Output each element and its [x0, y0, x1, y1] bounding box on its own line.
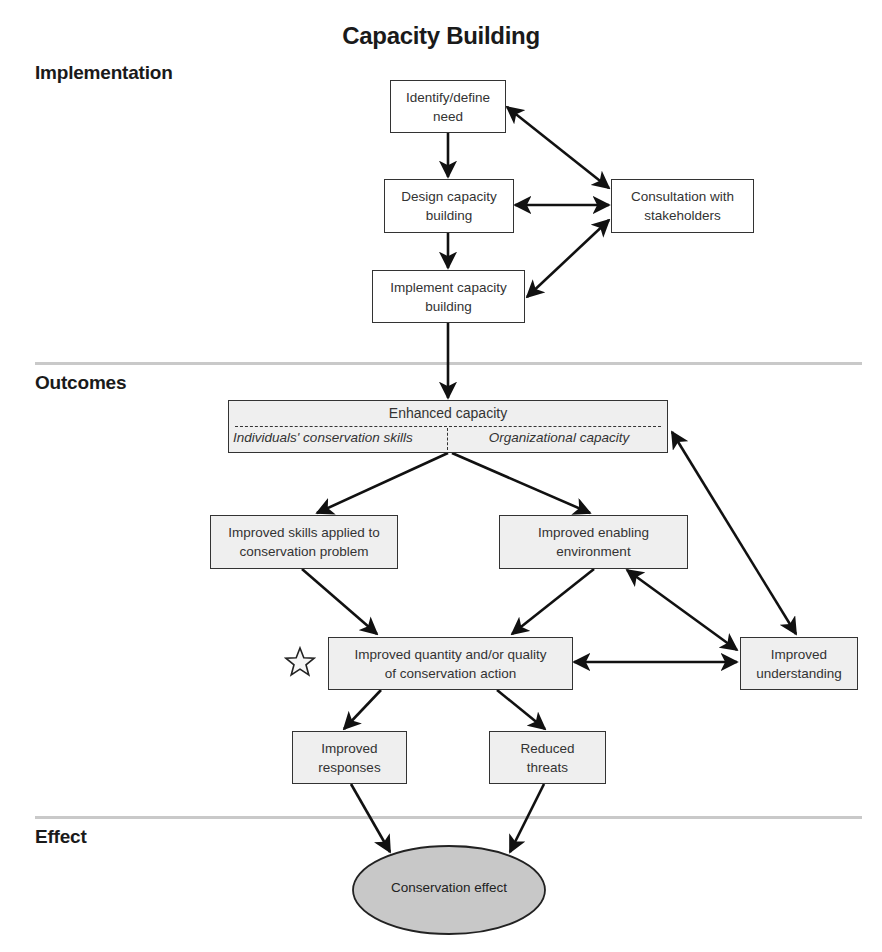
node-label-line: threats — [520, 758, 574, 777]
node-label-line: Design capacity — [401, 187, 496, 206]
node-label-line: building — [390, 297, 506, 316]
node-label-line: Improved enabling — [538, 523, 649, 542]
node-label-line: of conservation action — [354, 664, 546, 683]
arrow-quantity-responses — [344, 690, 381, 729]
dashed-split — [447, 428, 448, 450]
node-label-line: Improved — [756, 645, 842, 664]
connector-arrows — [0, 0, 882, 952]
individuals-skills-label: Individuals' conservation skills — [233, 430, 445, 445]
node-improved-enabling-environment: Improved enablingenvironment — [499, 515, 688, 569]
node-improved-quantity-quality: Improved quantity and/or qualityof conse… — [328, 637, 573, 690]
enhanced-capacity-title: Enhanced capacity — [229, 405, 667, 421]
arrow-enhanced-enabling — [452, 453, 590, 513]
node-label-line: stakeholders — [631, 206, 734, 225]
node-label-line: need — [406, 107, 490, 126]
node-enhanced-capacity: Enhanced capacity Individuals' conservat… — [228, 400, 668, 453]
node-label-line: Improved — [318, 739, 380, 758]
dashed-separator — [235, 426, 661, 427]
node-label-line: building — [401, 206, 496, 225]
node-improved-responses: Improvedresponses — [292, 731, 407, 784]
node-label-line: responses — [318, 758, 380, 777]
node-label-line: Consultation with — [631, 187, 734, 206]
arrow-enabling-understanding — [627, 570, 737, 650]
node-label-line: Reduced — [520, 739, 574, 758]
node-label-line: Improved quantity and/or quality — [354, 645, 546, 664]
node-consultation-stakeholders: Consultation withstakeholders — [611, 179, 754, 233]
node-label-line: Implement capacity — [390, 278, 506, 297]
arrow-skills-quantity — [302, 569, 377, 634]
arrow-implement-consultation — [527, 220, 609, 297]
node-implement-capacity-building: Implement capacitybuilding — [372, 270, 525, 323]
node-improved-skills: Improved skills applied toconservation p… — [210, 515, 398, 569]
node-label-line: Identify/define — [406, 88, 490, 107]
arrow-threats-effect — [510, 784, 544, 852]
arrow-enhanced-skills — [317, 453, 448, 513]
node-identify-need: Identify/defineneed — [390, 80, 506, 133]
node-label-line: Improved skills applied to — [228, 523, 380, 542]
star-icon — [284, 646, 316, 678]
node-improved-understanding: Improvedunderstanding — [740, 637, 858, 690]
node-label-line: conservation problem — [228, 542, 380, 561]
organizational-capacity-label: Organizational capacity — [453, 430, 665, 445]
conservation-effect-label: Conservation effect — [353, 880, 545, 895]
arrow-responses-effect — [351, 784, 390, 852]
node-design-capacity-building: Design capacitybuilding — [384, 179, 514, 233]
arrow-enhanced-understanding — [672, 432, 796, 634]
arrow-quantity-threats — [497, 690, 545, 729]
node-label-line: understanding — [756, 664, 842, 683]
node-reduced-threats: Reducedthreats — [489, 731, 606, 784]
arrow-enabling-quantity — [512, 569, 594, 634]
arrow-identify-consultation — [507, 107, 609, 188]
node-label-line: environment — [538, 542, 649, 561]
